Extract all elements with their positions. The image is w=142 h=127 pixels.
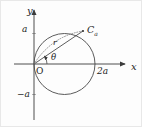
radius-label-r: r [53, 39, 57, 47]
theta-arc [44, 56, 47, 64]
point-label-c: Ca [87, 25, 98, 37]
radius-vector [34, 31, 83, 64]
point-marker-c [82, 30, 84, 32]
angle-label-theta: θ [51, 53, 56, 62]
figure-container: y x O a −a 2a Ca r θ [0, 0, 142, 127]
x-axis-label: x [131, 62, 137, 72]
x-tick-label-2a: 2a [97, 67, 108, 76]
point-label-c-subscript: a [94, 30, 98, 37]
y-tick-label-a: a [22, 25, 27, 34]
diagram-canvas [0, 0, 142, 127]
y-tick-label-negative-a: −a [17, 90, 30, 99]
origin-label: O [36, 67, 43, 76]
y-axis-label: y [27, 6, 33, 16]
